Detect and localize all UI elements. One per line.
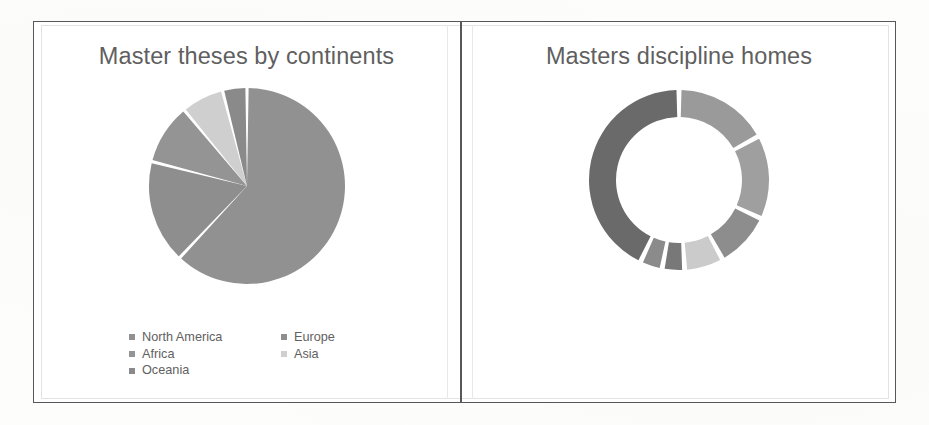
legend-label-europe: Europe bbox=[294, 331, 335, 344]
legend-label-africa: Africa bbox=[142, 348, 174, 361]
chart-panel-continents: Master theses by continents North Americ… bbox=[33, 21, 460, 403]
slice-health[interactable] bbox=[735, 139, 769, 216]
chart-title-continents: Master theses by continents bbox=[33, 43, 460, 70]
legend-item-oceania[interactable]: Oceania bbox=[129, 364, 281, 377]
legend-swatch-icon-north-america bbox=[129, 334, 135, 340]
legend-item-north-america[interactable]: North America bbox=[129, 331, 281, 344]
legend-swatch-icon-africa bbox=[129, 351, 135, 357]
doughnut-chart-svg bbox=[574, 83, 784, 288]
chart-title-disciplines: Masters discipline homes bbox=[462, 43, 896, 70]
legend-swatch-icon-europe bbox=[281, 334, 287, 340]
legend-item-europe[interactable]: Europe bbox=[281, 331, 433, 344]
legend-label-asia: Asia bbox=[294, 348, 319, 361]
legend-label-oceania: Oceania bbox=[142, 364, 189, 377]
slice-others[interactable] bbox=[589, 90, 677, 260]
slice-education[interactable] bbox=[665, 242, 683, 270]
legend-swatch-icon-asia bbox=[281, 351, 287, 357]
pie-chart-svg bbox=[117, 83, 377, 293]
slice-communication[interactable] bbox=[711, 208, 759, 257]
legend-item-asia[interactable]: Asia bbox=[281, 348, 433, 361]
legend-label-north-america: North America bbox=[142, 331, 222, 344]
pie-chart-continents bbox=[33, 83, 460, 298]
slice-business[interactable] bbox=[681, 90, 757, 148]
legend-swatch-icon-oceania bbox=[129, 368, 135, 374]
chart-panel-disciplines: Masters discipline homes Business Health… bbox=[462, 21, 896, 403]
doughnut-chart-disciplines bbox=[462, 83, 896, 298]
legend-item-africa[interactable]: Africa bbox=[129, 348, 281, 361]
slice-agriculture-sciences[interactable] bbox=[685, 236, 720, 270]
legend-continents: North America Europe Africa Asia Oceania bbox=[129, 331, 433, 377]
